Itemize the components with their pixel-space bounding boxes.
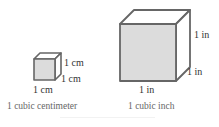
small-cube-depth-label: 1 cm [61,74,81,84]
divider-line [60,117,155,118]
large-cube [120,10,190,81]
large-cube-height-label: 1 in [194,30,209,40]
small-cube-width-label: 1 cm [33,85,53,95]
large-cube-caption: 1 cubic inch [128,101,174,111]
small-cube-height-label: 1 cm [64,58,84,68]
small-cube-caption: 1 cubic centimeter [7,101,77,111]
large-cube-width-label: 1 in [139,85,154,95]
large-cube-depth-label: 1 in [187,67,202,77]
small-cube [34,53,61,80]
